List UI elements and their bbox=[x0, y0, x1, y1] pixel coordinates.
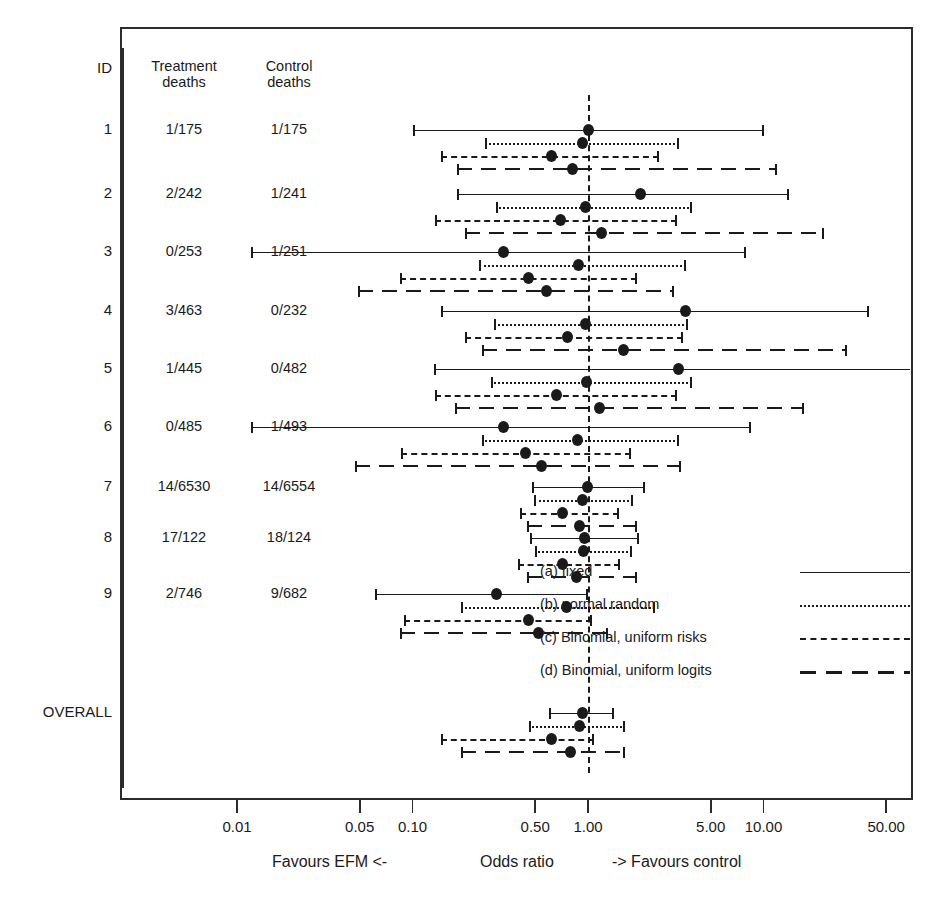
study-id: 8 bbox=[20, 528, 112, 545]
interval-cap-lower bbox=[355, 461, 357, 472]
interval-cap-upper bbox=[684, 260, 686, 271]
interval-line bbox=[455, 407, 804, 409]
interval-cap-lower bbox=[441, 734, 443, 745]
column-header-control: Control deaths bbox=[244, 58, 334, 90]
confidence-interval-c bbox=[441, 733, 594, 745]
confidence-interval-b bbox=[485, 137, 679, 149]
interval-line bbox=[355, 465, 681, 467]
interval-cap-upper bbox=[787, 189, 789, 200]
point-estimate-marker bbox=[565, 746, 576, 758]
interval-cap-upper bbox=[690, 202, 692, 213]
point-estimate-marker bbox=[635, 188, 646, 200]
point-estimate-marker bbox=[546, 150, 557, 162]
axis-tick-label: 0.10 bbox=[398, 818, 427, 835]
point-estimate-marker bbox=[574, 520, 585, 532]
axis-tick bbox=[710, 800, 712, 813]
interval-cap-lower bbox=[461, 747, 463, 758]
interval-line bbox=[441, 739, 594, 741]
confidence-interval-d bbox=[457, 163, 777, 175]
axis-tick bbox=[763, 800, 765, 813]
point-estimate-marker bbox=[498, 421, 509, 433]
treatment-deaths-value: 3/463 bbox=[128, 302, 240, 318]
interval-cap-upper bbox=[677, 138, 679, 149]
confidence-interval-c bbox=[465, 331, 683, 343]
legend-item-d: (d) Binomial, uniform logits bbox=[540, 656, 910, 689]
interval-line bbox=[434, 369, 910, 370]
axis-tick bbox=[885, 800, 887, 813]
interval-cap-upper bbox=[675, 390, 677, 401]
confidence-interval-a bbox=[251, 246, 747, 258]
interval-cap-lower bbox=[530, 533, 532, 544]
interval-cap-upper bbox=[775, 164, 777, 175]
interval-cap-upper bbox=[686, 319, 688, 330]
interval-cap-upper bbox=[629, 448, 631, 459]
confidence-interval-d bbox=[455, 402, 804, 414]
interval-cap-lower bbox=[527, 572, 529, 583]
interval-cap-upper bbox=[623, 721, 625, 732]
confidence-interval-b bbox=[491, 376, 692, 388]
confidence-interval-b bbox=[482, 434, 679, 446]
point-estimate-marker bbox=[577, 137, 588, 149]
point-estimate-marker bbox=[673, 363, 684, 375]
interval-cap-upper bbox=[672, 286, 674, 297]
interval-cap-lower bbox=[401, 448, 403, 459]
confidence-interval-c bbox=[400, 272, 637, 284]
study-id: 9 bbox=[20, 584, 112, 601]
interval-cap-upper bbox=[623, 747, 625, 758]
interval-cap-upper bbox=[635, 521, 637, 532]
confidence-interval-d bbox=[358, 285, 674, 297]
interval-cap-lower bbox=[494, 319, 496, 330]
confidence-interval-d bbox=[465, 227, 823, 239]
point-estimate-marker bbox=[581, 376, 592, 388]
treatment-deaths-value: 0/253 bbox=[128, 243, 240, 259]
point-estimate-marker bbox=[555, 214, 566, 226]
control-deaths-value: 0/482 bbox=[244, 360, 334, 376]
confidence-interval-a bbox=[457, 188, 789, 200]
point-estimate-marker bbox=[491, 588, 502, 600]
interval-cap-lower bbox=[520, 508, 522, 519]
treatment-deaths-value: 0/485 bbox=[128, 418, 240, 434]
interval-cap-lower bbox=[529, 721, 531, 732]
confidence-interval-c bbox=[520, 507, 619, 519]
treatment-deaths-value: 1/445 bbox=[128, 360, 240, 376]
axis-tick-label: 1.00 bbox=[573, 818, 602, 835]
point-estimate-marker bbox=[680, 305, 691, 317]
interval-cap-upper bbox=[867, 306, 869, 317]
control-deaths-value: 1/175 bbox=[244, 121, 334, 137]
legend: (a) fixed(b) normal random(c) Binomial, … bbox=[540, 557, 910, 689]
interval-line bbox=[520, 513, 619, 515]
point-estimate-marker bbox=[577, 494, 588, 506]
interval-cap-upper bbox=[681, 332, 683, 343]
interval-cap-lower bbox=[404, 615, 406, 626]
study-id: 2 bbox=[20, 184, 112, 201]
study-id: 5 bbox=[20, 359, 112, 376]
confidence-interval-b bbox=[494, 318, 688, 330]
point-estimate-marker bbox=[546, 733, 557, 745]
study-id: 6 bbox=[20, 417, 112, 434]
interval-cap-lower bbox=[485, 138, 487, 149]
axis-tick bbox=[587, 800, 589, 813]
interval-cap-upper bbox=[643, 482, 645, 493]
axis-tick-label: 50.00 bbox=[867, 818, 905, 835]
study-id: 1 bbox=[20, 120, 112, 137]
point-estimate-marker bbox=[583, 124, 594, 136]
interval-cap-upper bbox=[631, 495, 633, 506]
interval-line bbox=[461, 751, 624, 753]
interval-cap-upper bbox=[845, 345, 847, 356]
confidence-interval-c bbox=[435, 214, 676, 226]
legend-label: (b) normal random bbox=[540, 596, 659, 612]
point-estimate-marker bbox=[541, 285, 552, 297]
interval-line bbox=[465, 337, 683, 339]
control-deaths-value: 9/682 bbox=[244, 585, 334, 601]
interval-cap-upper bbox=[762, 125, 764, 136]
point-estimate-marker bbox=[572, 434, 583, 446]
confidence-interval-b bbox=[529, 720, 625, 732]
legend-item-b: (b) normal random bbox=[540, 590, 910, 623]
point-estimate-marker bbox=[567, 163, 578, 175]
confidence-interval-a bbox=[549, 707, 614, 719]
point-estimate-marker bbox=[577, 707, 588, 719]
point-estimate-marker bbox=[579, 532, 590, 544]
column-header-id: ID bbox=[60, 59, 112, 76]
axis-caption-left: Favours EFM <- bbox=[272, 853, 387, 871]
legend-line-swatch-dotted bbox=[800, 605, 910, 607]
